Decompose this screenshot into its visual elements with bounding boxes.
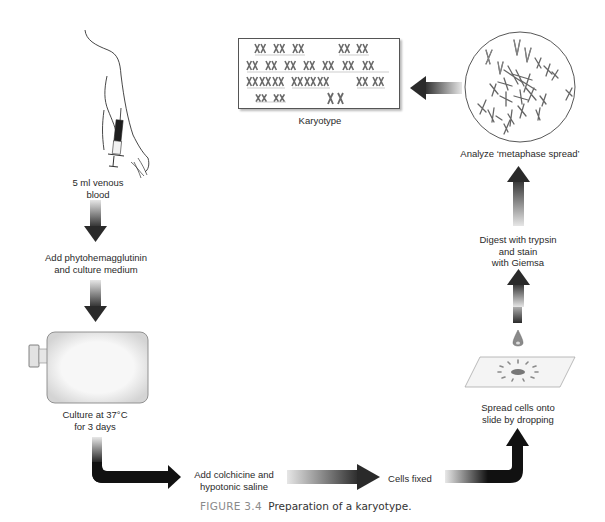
arrow-down-1 bbox=[84, 200, 107, 242]
label-line: Spread cells onto bbox=[466, 402, 570, 414]
label-culture: Culture at 37°C for 3 days bbox=[50, 409, 140, 432]
metaphase-spread-icon bbox=[465, 32, 575, 142]
label-line: slide by dropping bbox=[466, 414, 570, 426]
label-line: and stain bbox=[470, 246, 566, 258]
arrow-right-straight bbox=[287, 464, 380, 490]
label-line: Add colchicine and bbox=[184, 469, 284, 481]
arrow-curve-up bbox=[445, 428, 529, 483]
label-line: and culture medium bbox=[28, 264, 164, 276]
label-digest: Digest with trypsin and stain with Giems… bbox=[470, 234, 566, 269]
label-blood: 5 ml venous blood bbox=[58, 177, 138, 200]
label-line: Digest with trypsin bbox=[470, 234, 566, 246]
label-line: with Giemsa bbox=[470, 257, 566, 269]
label-karyotype: Karyotype bbox=[280, 115, 360, 127]
karyotype-chart-icon bbox=[238, 38, 400, 109]
figure-number: FIGURE 3.4 bbox=[200, 500, 262, 512]
figure-title: Preparation of a karyotype. bbox=[268, 500, 411, 512]
figure-caption: FIGURE 3.4 Preparation of a karyotype. bbox=[200, 500, 412, 512]
label-line: Culture at 37°C bbox=[50, 409, 140, 421]
arrow-up-2 bbox=[507, 166, 530, 226]
label-colchicine: Add colchicine and hypotonic saline bbox=[184, 469, 284, 492]
label-line: blood bbox=[58, 189, 138, 201]
label-analyze: Analyze ‘metaphase spread’ bbox=[456, 148, 584, 160]
arrow-curve-right bbox=[92, 437, 181, 489]
culture-flask-icon bbox=[29, 332, 148, 403]
label-phytohemagglutinin: Add phytohemagglutinin and culture mediu… bbox=[28, 252, 164, 275]
label-line: Cells fixed bbox=[382, 473, 438, 485]
arrow-left bbox=[410, 76, 462, 100]
label-spread: Spread cells onto slide by dropping bbox=[466, 402, 570, 425]
slide-drop-icon bbox=[465, 300, 575, 387]
label-cells-fixed: Cells fixed bbox=[382, 473, 438, 485]
label-line: Analyze ‘metaphase spread’ bbox=[456, 148, 584, 160]
label-line: Add phytohemagglutinin bbox=[28, 252, 164, 264]
label-line: hypotonic saline bbox=[184, 481, 284, 493]
arrow-up-1 bbox=[507, 269, 530, 307]
arrow-down-2 bbox=[84, 280, 107, 322]
label-line: 5 ml venous bbox=[58, 177, 138, 189]
arm-syringe-icon bbox=[85, 30, 149, 178]
label-line: Karyotype bbox=[280, 115, 360, 127]
label-line: for 3 days bbox=[50, 421, 140, 433]
